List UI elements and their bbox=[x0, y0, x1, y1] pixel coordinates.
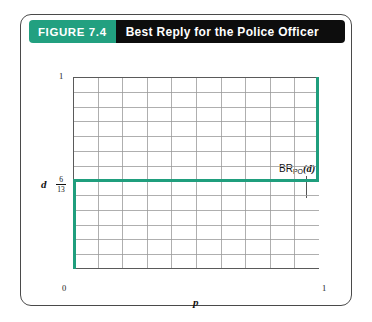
axis-top bbox=[73, 77, 319, 78]
fraction-denominator: 13 bbox=[54, 185, 68, 194]
axis-bottom bbox=[73, 268, 319, 269]
y-axis-label: d bbox=[41, 178, 47, 190]
y-axis-tick-fraction: 6 13 bbox=[54, 175, 68, 194]
figure-card: FIGURE 7.4 Best Reply for the Police Off… bbox=[20, 14, 352, 306]
y-axis-tick-1: 1 bbox=[59, 71, 63, 81]
plot-area bbox=[73, 77, 319, 269]
fraction-numerator: 6 bbox=[54, 175, 68, 184]
x-axis-tick-0: 0 bbox=[62, 283, 66, 293]
grid-lines bbox=[73, 77, 319, 269]
figure-number-badge: FIGURE 7.4 bbox=[29, 20, 116, 43]
br-segment-left-vertical bbox=[73, 180, 76, 269]
figure-title: Best Reply for the Police Officer bbox=[116, 20, 345, 43]
br-segment-right-vertical bbox=[316, 77, 319, 180]
x-axis-label: p bbox=[193, 296, 199, 308]
x-axis-tick-1: 1 bbox=[322, 283, 326, 293]
figure-header: FIGURE 7.4 Best Reply for the Police Off… bbox=[29, 20, 345, 43]
br-segment-horizontal bbox=[73, 179, 319, 182]
